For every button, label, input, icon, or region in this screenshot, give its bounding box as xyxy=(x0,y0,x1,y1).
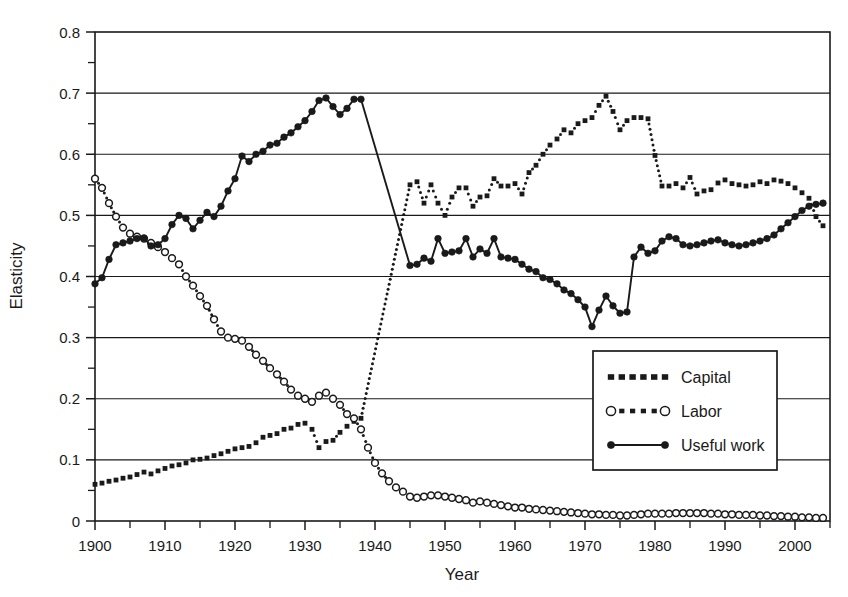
data-point-marker xyxy=(233,446,238,451)
data-point-marker xyxy=(582,510,589,517)
series-dot xyxy=(397,238,400,241)
series-dot xyxy=(434,196,437,199)
data-point-marker xyxy=(701,240,708,247)
data-point-marker xyxy=(358,96,365,103)
data-point-marker xyxy=(667,184,672,189)
data-point-marker xyxy=(337,111,344,118)
x-tick-label: 1940 xyxy=(358,537,391,554)
data-point-marker xyxy=(596,511,603,518)
series-dot xyxy=(195,289,198,292)
data-point-marker xyxy=(281,134,288,141)
data-point-marker xyxy=(744,184,749,189)
data-point-marker xyxy=(296,422,301,427)
data-point-marker xyxy=(624,309,631,316)
data-point-marker xyxy=(660,184,665,189)
data-point-marker xyxy=(141,235,148,242)
data-point-marker xyxy=(786,181,791,186)
data-point-marker xyxy=(729,241,736,248)
data-point-marker xyxy=(709,187,714,192)
data-point-marker xyxy=(358,426,365,433)
data-point-marker xyxy=(288,386,295,393)
data-point-marker xyxy=(408,182,413,187)
data-point-marker xyxy=(246,158,253,165)
data-point-marker xyxy=(548,143,553,148)
data-point-marker xyxy=(807,196,812,201)
data-point-marker xyxy=(646,116,651,121)
series-dot xyxy=(394,253,397,256)
legend-swatch-marker xyxy=(608,374,614,380)
series-dot xyxy=(335,435,338,438)
y-tick-label: 0.3 xyxy=(59,329,80,346)
data-point-marker xyxy=(583,118,588,123)
series-dot xyxy=(650,133,653,136)
data-point-marker xyxy=(743,511,750,518)
series-dot xyxy=(105,197,108,200)
series-dot xyxy=(371,362,374,365)
data-point-marker xyxy=(730,181,735,186)
data-point-marker xyxy=(617,512,624,519)
data-point-marker xyxy=(680,510,687,517)
data-point-marker xyxy=(239,153,246,160)
data-point-marker xyxy=(169,255,176,262)
legend-swatch-marker xyxy=(629,374,635,380)
data-point-marker xyxy=(183,273,190,280)
data-point-marker xyxy=(351,415,358,422)
data-point-marker xyxy=(491,235,498,242)
data-point-marker xyxy=(631,254,638,261)
series-dot xyxy=(188,280,191,283)
series-dot xyxy=(402,213,405,216)
data-point-marker xyxy=(456,496,463,503)
y-axis-title: Elasticity xyxy=(7,242,26,310)
legend-swatch-marker xyxy=(662,374,668,380)
data-point-marker xyxy=(792,213,799,220)
data-point-marker xyxy=(190,282,197,289)
data-point-marker xyxy=(729,511,736,518)
data-point-marker xyxy=(505,503,512,510)
series-dot xyxy=(369,451,372,454)
data-point-marker xyxy=(562,127,567,132)
series-dot xyxy=(356,422,359,425)
series-dot xyxy=(406,193,409,196)
series-dot xyxy=(390,273,393,276)
data-point-marker xyxy=(225,334,232,341)
series-dot xyxy=(522,187,525,190)
data-point-marker xyxy=(540,274,547,281)
data-point-marker xyxy=(260,357,267,364)
data-point-marker xyxy=(688,175,693,180)
data-point-marker xyxy=(197,217,204,224)
data-point-marker xyxy=(393,484,400,491)
legend-item-label: Labor xyxy=(681,403,723,420)
data-point-marker xyxy=(274,371,281,378)
data-point-marker xyxy=(309,398,316,405)
data-point-marker xyxy=(617,310,624,317)
data-point-marker xyxy=(344,411,351,418)
series-dot xyxy=(490,183,493,186)
data-point-marker xyxy=(155,241,162,248)
data-point-marker xyxy=(120,224,127,231)
data-point-marker xyxy=(785,513,792,520)
legend-swatch-marker xyxy=(641,409,646,414)
series-dot xyxy=(396,243,399,246)
data-point-marker xyxy=(750,240,757,247)
data-point-marker xyxy=(261,435,266,440)
data-point-marker xyxy=(806,203,813,210)
data-point-marker xyxy=(820,515,827,522)
data-point-marker xyxy=(211,213,218,220)
data-point-marker xyxy=(499,184,504,189)
series-dot xyxy=(691,181,694,184)
data-point-marker xyxy=(218,328,225,335)
data-point-marker xyxy=(506,184,511,189)
data-point-marker xyxy=(625,118,630,123)
data-point-marker xyxy=(428,492,435,499)
data-point-marker xyxy=(302,117,309,124)
data-point-marker xyxy=(526,266,533,273)
series-dot xyxy=(202,299,205,302)
data-point-marker xyxy=(750,511,757,518)
series-dot xyxy=(392,263,395,266)
series-dot xyxy=(693,187,696,190)
series-dot xyxy=(378,327,381,330)
data-point-marker xyxy=(492,176,497,181)
data-point-marker xyxy=(464,185,469,190)
series-dot xyxy=(446,208,449,211)
series-dot xyxy=(375,342,378,345)
